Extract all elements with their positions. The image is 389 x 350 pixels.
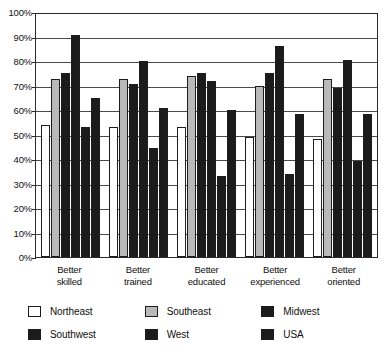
legend-swatch-icon (145, 329, 158, 340)
legend-item[interactable]: Midwest (261, 306, 378, 317)
bar-chart-figure: 0%10%20%30%40%50%60%70%80%90%100% Better… (0, 0, 389, 350)
legend-item[interactable]: Southeast (145, 306, 262, 317)
bar-group (104, 14, 172, 257)
y-tick-label: 90% (0, 33, 32, 43)
bar-group (172, 14, 240, 257)
x-tick-label-line: oriented (309, 276, 378, 288)
bar (275, 46, 284, 257)
x-tick-label: Betterskilled (35, 264, 104, 287)
x-tick-label-line: Better (35, 264, 104, 276)
bar-groups (36, 14, 377, 257)
bar (187, 76, 196, 257)
bar-group (241, 14, 309, 257)
bar (313, 139, 322, 257)
bar (343, 60, 352, 257)
bar (177, 127, 186, 257)
bar (71, 35, 80, 257)
bar (51, 79, 60, 257)
x-tick-label: Betteroriented (309, 264, 378, 287)
bar (129, 84, 138, 257)
legend-label: USA (283, 329, 303, 340)
legend-swatch-icon (28, 329, 41, 340)
bar (295, 114, 304, 257)
legend-item[interactable]: Southwest (28, 329, 145, 340)
legend-row: SouthwestWestUSA (28, 323, 378, 346)
chart-legend: NortheastSoutheastMidwestSouthwestWestUS… (28, 300, 378, 346)
bar (109, 127, 118, 257)
x-tick-label-line: educated (172, 276, 241, 288)
legend-label: West (167, 329, 189, 340)
bar (363, 114, 372, 257)
bar (207, 81, 216, 257)
bar (119, 79, 128, 257)
y-tick-label: 60% (0, 106, 32, 116)
y-tick-label: 80% (0, 57, 32, 67)
legend-label: Southwest (50, 329, 96, 340)
x-tick-label-line: Better (241, 264, 310, 276)
bar (227, 110, 236, 257)
x-tick-label: Bettereducated (172, 264, 241, 287)
bar (353, 161, 362, 257)
y-tick-label: 0% (0, 253, 32, 263)
bar (245, 137, 254, 257)
legend-swatch-icon (261, 306, 274, 317)
legend-label: Midwest (283, 306, 319, 317)
bar (41, 125, 50, 257)
x-tick-label: Betterexperienced (241, 264, 310, 287)
legend-item[interactable]: West (145, 329, 262, 340)
bar (255, 86, 264, 258)
legend-row: NortheastSoutheastMidwest (28, 300, 378, 323)
plot-area (35, 13, 378, 258)
legend-item[interactable]: USA (261, 329, 378, 340)
x-tick-label-line: Better (172, 264, 241, 276)
bar (323, 79, 332, 257)
bar (91, 98, 100, 257)
bar-group (36, 14, 104, 257)
y-tick-label: 20% (0, 204, 32, 214)
y-tick-label: 40% (0, 155, 32, 165)
bar (197, 73, 206, 257)
x-tick-label-line: Better (309, 264, 378, 276)
x-tick-label-line: trained (104, 276, 173, 288)
bar (159, 108, 168, 257)
bar (285, 174, 294, 257)
legend-label: Northeast (50, 306, 92, 317)
y-tick-label: 30% (0, 180, 32, 190)
y-axis: 0%10%20%30%40%50%60%70%80%90%100% (0, 6, 32, 258)
plot-wrapper: 0%10%20%30%40%50%60%70%80%90%100% Better… (0, 6, 389, 296)
bar (61, 73, 70, 257)
x-axis: BetterskilledBettertrainedBettereducated… (35, 264, 378, 287)
y-tick-label: 70% (0, 82, 32, 92)
y-tick-label: 50% (0, 131, 32, 141)
legend-item[interactable]: Northeast (28, 306, 145, 317)
x-tick-label-line: skilled (35, 276, 104, 288)
legend-swatch-icon (261, 329, 274, 340)
y-tickmark (32, 258, 36, 259)
legend-swatch-icon (28, 306, 41, 317)
y-tick-label: 10% (0, 229, 32, 239)
bar (81, 127, 90, 257)
bar (265, 73, 274, 257)
bar (139, 61, 148, 257)
x-tick-label: Bettertrained (104, 264, 173, 287)
legend-label: Southeast (167, 306, 211, 317)
legend-swatch-icon (145, 306, 158, 317)
bar (217, 176, 226, 257)
x-tick-label-line: Better (104, 264, 173, 276)
x-tick-label-line: experienced (241, 276, 310, 288)
bar-group (309, 14, 377, 257)
bar (333, 88, 342, 257)
bar (149, 148, 158, 257)
y-tick-label: 100% (0, 8, 32, 18)
